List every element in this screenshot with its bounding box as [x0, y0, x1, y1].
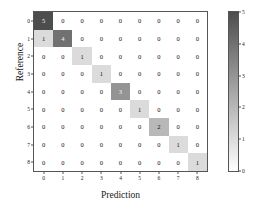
colorbar-tick-5: 5: [242, 9, 245, 15]
colorbar-tick-1: 1: [242, 136, 245, 142]
colorbar-tickmark-5: [238, 12, 241, 13]
colorbar-tickmark-4: [238, 43, 241, 44]
colorbar: 012345: [228, 11, 239, 172]
heatmap-cell-r8-c5: 0: [130, 153, 149, 171]
x-axis-tickmark-6: [158, 171, 159, 174]
heatmap-cell-r0-c7: 0: [169, 12, 188, 30]
heatmap-cell-grid: 5000000001400000000010000000001000000000…: [34, 12, 207, 171]
heatmap-cell-r5-c7: 0: [169, 100, 188, 118]
heatmap-cell-r0-c6: 0: [149, 12, 168, 30]
heatmap-cell-r5-c4: 0: [111, 100, 130, 118]
y-axis-tickmark-6: [31, 126, 34, 127]
heatmap-cell-r7-c1: 0: [53, 136, 72, 154]
heatmap-cell-r6-c7: 0: [169, 118, 188, 136]
x-axis-label: Prediction: [33, 190, 208, 200]
x-axis-tick-5: 5: [130, 175, 150, 181]
colorbar-tick-4: 4: [242, 41, 245, 47]
heatmap-cell-r1-c1: 4: [53, 30, 72, 48]
heatmap-cell-r2-c7: 0: [169, 47, 188, 65]
y-axis-tickmark-5: [31, 109, 34, 110]
heatmap-cell-r7-c5: 0: [130, 136, 149, 154]
heatmap-cell-r5-c0: 0: [34, 100, 53, 118]
heatmap-cell-r8-c2: 0: [72, 153, 91, 171]
heatmap-cell-r2-c2: 1: [72, 47, 91, 65]
heatmap-cell-r4-c5: 0: [130, 83, 149, 101]
heatmap-cell-r0-c4: 0: [111, 12, 130, 30]
heatmap-cell-r1-c4: 0: [111, 30, 130, 48]
heatmap-cell-r1-c5: 0: [130, 30, 149, 48]
x-axis-tick-0: 0: [34, 175, 54, 181]
heatmap-cell-r8-c1: 0: [53, 153, 72, 171]
x-axis-tickmark-0: [43, 171, 44, 174]
heatmap-cell-r2-c3: 0: [92, 47, 111, 65]
heatmap-cell-r3-c1: 0: [53, 65, 72, 83]
heatmap-cell-r3-c5: 0: [130, 65, 149, 83]
heatmap-cell-r5-c8: 0: [188, 100, 207, 118]
x-axis-tickmark-4: [120, 171, 121, 174]
heatmap-cell-r2-c4: 0: [111, 47, 130, 65]
heatmap-cell-r5-c1: 0: [53, 100, 72, 118]
x-axis-tick-1: 1: [53, 175, 73, 181]
heatmap-cell-r8-c8: 1: [188, 153, 207, 171]
heatmap-cell-r8-c0: 0: [34, 153, 53, 171]
heatmap-cell-r7-c4: 0: [111, 136, 130, 154]
heatmap-cell-r1-c3: 0: [92, 30, 111, 48]
heatmap-cell-r6-c0: 0: [34, 118, 53, 136]
heatmap-cell-r1-c7: 0: [169, 30, 188, 48]
heatmap-cell-r5-c3: 0: [92, 100, 111, 118]
heatmap-cell-r2-c5: 0: [130, 47, 149, 65]
y-axis-tickmark-2: [31, 56, 34, 57]
heatmap-cell-r4-c1: 0: [53, 83, 72, 101]
heatmap-cell-r0-c5: 0: [130, 12, 149, 30]
x-axis-tickmark-3: [101, 171, 102, 174]
y-axis-tickmark-3: [31, 73, 34, 74]
x-axis-tickmark-5: [139, 171, 140, 174]
x-axis-tickmark-2: [82, 171, 83, 174]
x-axis-tick-2: 2: [72, 175, 92, 181]
heatmap-cell-r7-c7: 1: [169, 136, 188, 154]
x-axis-tick-8: 8: [187, 175, 207, 181]
heatmap-cell-r3-c8: 0: [188, 65, 207, 83]
colorbar-tickmark-3: [238, 75, 241, 76]
heatmap-cell-r6-c1: 0: [53, 118, 72, 136]
heatmap-cell-r6-c5: 0: [130, 118, 149, 136]
heatmap-cell-r8-c6: 0: [149, 153, 168, 171]
heatmap-cell-r3-c4: 0: [111, 65, 130, 83]
heatmap-cell-r3-c6: 0: [149, 65, 168, 83]
heatmap-cell-r4-c6: 0: [149, 83, 168, 101]
y-axis-tickmark-7: [31, 144, 34, 145]
heatmap-cell-r6-c6: 2: [149, 118, 168, 136]
x-axis-tickmark-1: [62, 171, 63, 174]
confusion-matrix-figure: Reference 500000000140000000001000000000…: [0, 0, 255, 211]
x-axis-tick-7: 7: [168, 175, 188, 181]
heatmap-cell-r0-c0: 5: [34, 12, 53, 30]
heatmap-cell-r3-c3: 1: [92, 65, 111, 83]
heatmap-cell-r4-c4: 3: [111, 83, 130, 101]
heatmap-cell-r2-c1: 0: [53, 47, 72, 65]
heatmap-cell-r7-c0: 0: [34, 136, 53, 154]
colorbar-tick-0: 0: [242, 168, 245, 174]
x-axis-tickmark-7: [178, 171, 179, 174]
colorbar-tickmark-2: [238, 107, 241, 108]
colorbar-gradient: [229, 12, 238, 171]
heatmap-cell-r2-c6: 0: [149, 47, 168, 65]
y-axis-tickmark-1: [31, 38, 34, 39]
heatmap-cell-r1-c6: 0: [149, 30, 168, 48]
heatmap-cell-r8-c3: 0: [92, 153, 111, 171]
heatmap-cell-r6-c8: 0: [188, 118, 207, 136]
heatmap-cell-r7-c6: 0: [149, 136, 168, 154]
heatmap-cell-r0-c8: 0: [188, 12, 207, 30]
x-axis-tickmark-8: [197, 171, 198, 174]
colorbar-tickmark-1: [238, 139, 241, 140]
heatmap-cell-r6-c3: 0: [92, 118, 111, 136]
y-axis-tickmark-8: [31, 162, 34, 163]
heatmap-cell-r7-c2: 0: [72, 136, 91, 154]
heatmap-cell-r3-c2: 0: [72, 65, 91, 83]
colorbar-tick-2: 2: [242, 104, 245, 110]
y-axis-tickmark-4: [31, 91, 34, 92]
x-axis-tick-6: 6: [149, 175, 169, 181]
heatmap-cell-r0-c1: 0: [53, 12, 72, 30]
heatmap-cell-r4-c0: 0: [34, 83, 53, 101]
y-axis-label: Reference: [14, 12, 26, 112]
colorbar-tickmark-0: [238, 171, 241, 172]
